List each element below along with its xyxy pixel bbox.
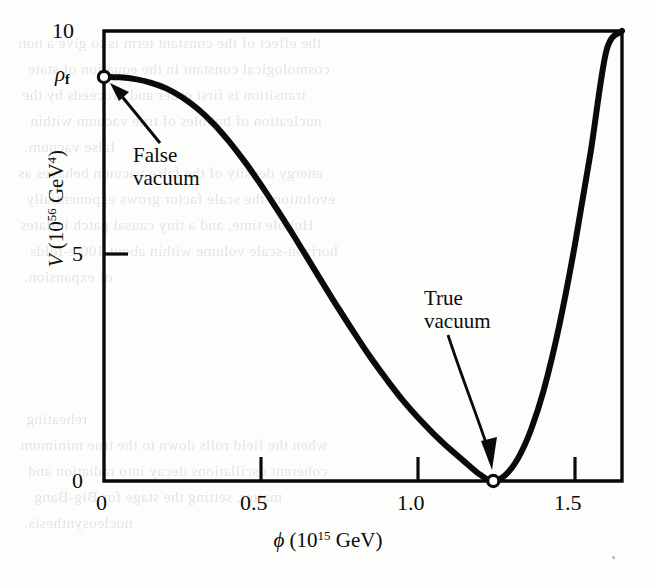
potential-curve (104, 31, 622, 481)
false-vacuum-arrow-head (110, 83, 129, 101)
rho-subscript: f (65, 72, 70, 87)
true-vacuum-marker (488, 475, 499, 486)
false-vacuum-callout-line1: False (133, 144, 199, 167)
y-axis-exponent: 56 (44, 208, 59, 221)
false-vacuum-callout-line2: vacuum (133, 167, 199, 190)
x-axis-title: ϕ(1015 GeV) (0, 528, 656, 553)
y-tick-label-0: 0 (72, 468, 83, 494)
true-vacuum-arrow-shaft (448, 335, 489, 452)
false-vacuum-arrow (110, 83, 160, 143)
x-tick-label-0: 0 (96, 490, 107, 516)
y-tick-label-10: 10 (52, 18, 74, 44)
true-vacuum-arrow (448, 335, 497, 470)
y-axis-units-tail: GeV (44, 163, 68, 208)
y-axis-title: V(1056 GeV4) (44, 150, 68, 267)
scan-speck (612, 556, 615, 559)
x-tick-label-0.5: 0.5 (240, 490, 268, 516)
true-vacuum-arrow-head (481, 437, 497, 470)
false-vacuum-callout: False vacuum (133, 144, 199, 190)
y-axis-units-power: 4 (44, 157, 59, 164)
x-axis-units-tail: GeV) (330, 528, 382, 552)
x-axis-exponent: 15 (317, 528, 330, 543)
true-vacuum-callout-line2: vacuum (424, 310, 490, 333)
x-axis-units-open: (10 (289, 528, 317, 552)
x-tick-label-1.5: 1.5 (554, 490, 582, 516)
y-axis-title-wrapper: V(1056 GeV4) (44, 109, 69, 309)
rho-f-label: ρf (55, 62, 70, 88)
false-vacuum-arrow-shaft (120, 94, 160, 143)
rho-symbol: ρ (55, 62, 65, 86)
y-axis-variable: V (44, 254, 68, 267)
y-axis-units-open: (10 (44, 221, 68, 249)
x-tick-label-1.0: 1.0 (397, 490, 425, 516)
figure-page: the effect of the constant term is to gi… (0, 0, 656, 588)
false-vacuum-marker (98, 71, 109, 82)
true-vacuum-callout: True vacuum (424, 287, 490, 333)
y-tick-label-5: 5 (72, 241, 83, 267)
x-tick-marks (261, 457, 575, 481)
y-axis-units-close: ) (44, 150, 68, 157)
true-vacuum-callout-line1: True (424, 287, 490, 310)
x-axis-variable: ϕ (274, 528, 285, 552)
